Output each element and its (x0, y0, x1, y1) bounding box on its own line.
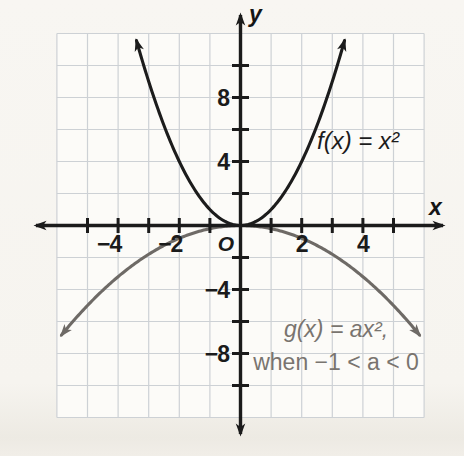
graph-figure: y x O f(x) = x² g(x) = ax², when −1 < a … (0, 0, 464, 456)
graph-canvas (0, 0, 464, 456)
